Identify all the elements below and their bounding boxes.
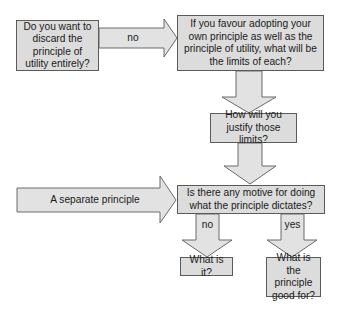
node-motive-question: Is there any motive for doing what the p… (177, 185, 325, 214)
node-discard-question: Do you want to discard the principle of … (16, 20, 99, 71)
edge-label-motive-yes: yes (281, 219, 304, 231)
node-limits-question: If you favour adopting your own principl… (177, 15, 324, 71)
edge-label-separate-principle: A separate principle (40, 194, 150, 206)
node-justify-question: How will you justify those limits? (210, 113, 297, 143)
arrow-limits-to-justify (222, 71, 276, 113)
arrow-justify-to-motive (224, 143, 276, 184)
node-good-for: What is the principle good for? (266, 257, 321, 297)
edge-label-no: no (118, 32, 148, 44)
edge-label-motive-no: no (196, 219, 219, 231)
node-what-is-it: What is it? (180, 257, 233, 276)
